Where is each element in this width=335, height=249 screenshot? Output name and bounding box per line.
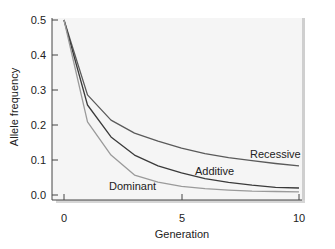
y-tick-label: 0.0 — [31, 189, 46, 201]
y-tick-label: 0.1 — [31, 154, 46, 166]
plot-right-shadow — [302, 18, 305, 200]
x-tick-label: 0 — [61, 212, 67, 224]
series-label-recessive: Recessive — [250, 148, 301, 160]
series-label-additive: Additive — [195, 165, 234, 177]
y-tick-label: 0.2 — [31, 119, 46, 131]
y-tick-label: 0.3 — [31, 84, 46, 96]
x-tick-label: 10 — [293, 212, 305, 224]
chart: 0.5 0.4 0.3 0.2 0.1 0.0 0 5 10 Generatio… — [0, 0, 335, 249]
series-label-dominant: Dominant — [109, 180, 156, 192]
y-tick-label: 0.4 — [31, 49, 46, 61]
y-tick-label: 0.5 — [31, 14, 46, 26]
x-axis-label: Generation — [155, 228, 209, 240]
x-tick-label: 5 — [179, 212, 185, 224]
y-axis-label: Allele frequency — [8, 67, 20, 146]
